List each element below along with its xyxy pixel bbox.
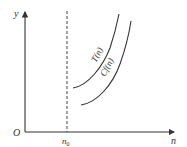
n0-label: n0 (62, 136, 70, 147)
cf-n-label: Cf(n) (98, 56, 116, 77)
t-n-label: T(n) (89, 46, 105, 64)
big-o-diagram: T(n) Cf(n) y O n n0 (0, 0, 187, 147)
y-axis-label: y (13, 8, 19, 19)
origin-label: O (13, 127, 20, 138)
x-axis-label: n (171, 135, 176, 146)
